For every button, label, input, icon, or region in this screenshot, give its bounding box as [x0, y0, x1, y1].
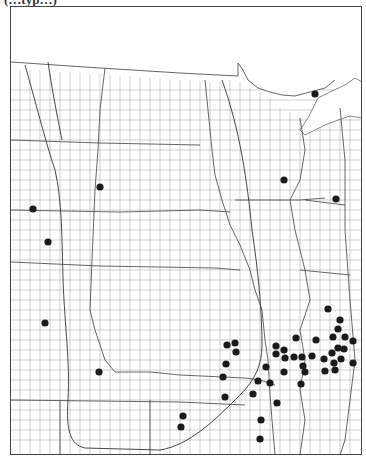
occurrence-dot [331, 366, 338, 373]
occurrence-dot [297, 380, 304, 387]
occurrence-dot [340, 345, 347, 352]
occurrence-dot [292, 334, 299, 341]
north-mask [11, 7, 362, 108]
occurrence-dot [29, 205, 36, 212]
occurrence-dot [337, 355, 344, 362]
occurrence-dot [232, 348, 239, 355]
occurrence-dot [308, 352, 315, 359]
occurrence-dot [221, 393, 228, 400]
occurrence-dot [280, 368, 287, 375]
occurrence-dot [257, 416, 264, 423]
occurrence-dot [41, 319, 48, 326]
occurrence-dot [177, 423, 184, 430]
occurrence-dot [219, 373, 226, 380]
distribution-map [0, 0, 366, 460]
occurrence-dot [249, 390, 256, 397]
occurrence-dot [329, 333, 336, 340]
occurrence-dot [298, 353, 305, 360]
occurrence-dot [334, 344, 341, 351]
occurrence-dot [328, 349, 335, 356]
occurrence-dot [262, 363, 269, 370]
occurrence-dot [272, 342, 279, 349]
occurrence-dot [330, 359, 337, 366]
occurrence-dot [334, 325, 341, 332]
occurrence-dot [222, 360, 229, 367]
occurrence-dot [336, 316, 343, 323]
occurrence-dot [332, 195, 339, 202]
occurrence-dot [281, 354, 288, 361]
occurrence-dot [95, 368, 102, 375]
occurrence-dot [312, 336, 319, 343]
occurrence-dot [341, 333, 348, 340]
occurrence-dot [321, 367, 328, 374]
occurrence-dot [349, 359, 356, 366]
occurrence-dot [301, 368, 308, 375]
occurrence-dot [311, 90, 318, 97]
occurrence-dot [349, 337, 356, 344]
occurrence-dot [266, 379, 273, 386]
occurrence-dot [320, 355, 327, 362]
occurrence-dot [223, 341, 230, 348]
occurrence-dot [254, 377, 261, 384]
occurrence-dot [96, 183, 103, 190]
occurrence-dot [280, 346, 287, 353]
occurrence-dot [290, 353, 297, 360]
occurrence-dot [273, 399, 280, 406]
occurrence-dot [280, 176, 287, 183]
occurrence-dot [179, 412, 186, 419]
occurrence-dot [324, 305, 331, 312]
occurrence-dot [256, 435, 263, 442]
occurrence-dot [231, 339, 238, 346]
occurrence-dot [272, 350, 279, 357]
occurrence-dot [44, 238, 51, 245]
